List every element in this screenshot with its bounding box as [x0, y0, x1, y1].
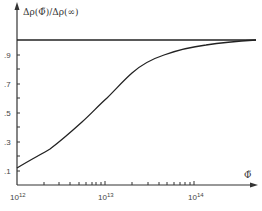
- x-tick-label: 1014: [188, 192, 204, 202]
- x-tick-label: 1013: [98, 192, 114, 202]
- y-tick-label: .3: [4, 138, 11, 147]
- y-tick-label: .7: [4, 80, 11, 89]
- y-tick-label: .1: [4, 167, 11, 176]
- y-tick-label: .9: [4, 51, 11, 60]
- x-axis-arrow-icon: [250, 183, 258, 188]
- x-axis-title: Φ̃: [244, 170, 251, 180]
- y-axis-arrow-icon: [15, 2, 20, 10]
- response-curve: [17, 40, 256, 168]
- chart: .1 .3 .5 .7 .9 1012 1013 1014 Δρ(Φ̃)/Δρ(…: [0, 0, 262, 211]
- x-tick-label: 1012: [10, 192, 26, 202]
- y-tick-label: .5: [4, 109, 11, 118]
- y-axis-title: Δρ(Φ̃)/Δρ(∞): [23, 7, 79, 17]
